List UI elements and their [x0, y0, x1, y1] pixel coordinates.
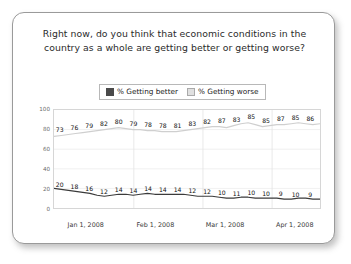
- data-label: 9: [308, 191, 312, 198]
- data-label: 16: [85, 185, 93, 192]
- screenshot-root: Right now, do you think that economic co…: [0, 0, 351, 264]
- y-axis-tick: 20: [33, 186, 50, 192]
- chart-title: Right now, do you think that economic co…: [29, 27, 320, 54]
- y-axis-tick: 40: [33, 166, 50, 172]
- data-label: 80: [115, 118, 123, 125]
- y-axis-tick: 60: [33, 146, 50, 152]
- y-axis-tick: 0: [33, 206, 50, 212]
- legend-label-getting-better: % Getting better: [117, 87, 178, 96]
- data-label: 10: [247, 189, 255, 196]
- data-label: 83: [233, 116, 241, 123]
- data-label: 87: [218, 117, 226, 124]
- data-label: 78: [159, 122, 167, 129]
- data-label: 82: [100, 120, 108, 127]
- legend-swatch-getting-better-icon: [106, 88, 114, 96]
- data-label: 85: [262, 117, 270, 124]
- x-axis-tick: Mar 1, 2008: [206, 221, 244, 229]
- data-label: 14: [144, 185, 152, 192]
- x-axis-tick: Jan 1, 2008: [68, 221, 104, 229]
- y-axis-tick: 100: [33, 106, 50, 112]
- data-label: 12: [100, 188, 108, 195]
- data-label: 14: [130, 187, 138, 194]
- data-label: 10: [218, 189, 226, 196]
- data-label: 79: [85, 122, 93, 129]
- data-label: 11: [233, 190, 241, 197]
- legend-item-getting-worse: % Getting worse: [187, 87, 258, 96]
- chart-legend: % Getting better % Getting worse: [99, 84, 266, 100]
- data-label: 14: [174, 186, 182, 193]
- x-axis-tick: Apr 1, 2008: [276, 221, 313, 229]
- chart-plot-area: 020406080100 737679828079787881838287838…: [33, 109, 321, 219]
- data-label: 9: [279, 190, 283, 197]
- data-label: 86: [306, 115, 314, 122]
- legend-swatch-getting-worse-icon: [187, 88, 195, 96]
- data-label: 18: [71, 183, 79, 190]
- data-label: 83: [188, 120, 196, 127]
- data-label: 73: [56, 126, 64, 133]
- x-axis-ticks: Jan 1, 2008Feb 1, 2008Mar 1, 2008Apr 1, …: [53, 221, 321, 235]
- data-label: 85: [247, 113, 255, 120]
- chart-card: Right now, do you think that economic co…: [12, 12, 335, 244]
- data-label: 78: [144, 121, 152, 128]
- data-label: 14: [115, 186, 123, 193]
- x-axis-tick: Feb 1, 2008: [137, 221, 175, 229]
- legend-label-getting-worse: % Getting worse: [198, 87, 258, 96]
- data-label: 10: [292, 191, 300, 198]
- data-label: 85: [292, 114, 300, 121]
- data-label: 20: [56, 181, 64, 188]
- data-label: 14: [159, 186, 167, 193]
- data-label: 10: [262, 190, 270, 197]
- y-axis-tick: 80: [33, 126, 50, 132]
- data-label: 76: [71, 124, 79, 131]
- data-label: 87: [277, 115, 285, 122]
- data-label: 82: [203, 118, 211, 125]
- data-label: 79: [130, 120, 138, 127]
- data-label: 81: [174, 122, 182, 129]
- legend-item-getting-better: % Getting better: [106, 87, 178, 96]
- data-label: 12: [203, 188, 211, 195]
- data-label: 12: [188, 187, 196, 194]
